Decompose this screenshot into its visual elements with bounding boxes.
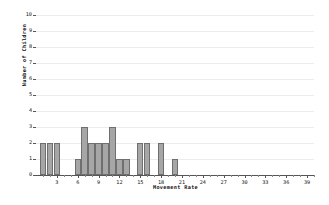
x-axis-tick-major xyxy=(286,175,287,178)
histogram-bar xyxy=(75,159,81,175)
y-axis-tick-label: 7 xyxy=(20,60,32,65)
x-axis-tick-minor xyxy=(217,175,218,177)
y-axis-tick-label: 0 xyxy=(20,172,32,177)
y-axis-tick-label: 6 xyxy=(20,76,32,81)
x-axis-tick-minor xyxy=(231,175,232,177)
bar-series xyxy=(36,15,314,175)
x-axis-title: Movement Rate xyxy=(36,184,315,190)
histogram-bar xyxy=(81,127,87,175)
plot-area: 012345678910 36912151821242730333639 xyxy=(36,15,314,175)
x-axis-tick-minor xyxy=(175,175,176,177)
histogram-bar xyxy=(88,143,94,175)
x-axis-tick-minor xyxy=(126,175,127,177)
x-axis-tick-major xyxy=(99,175,100,178)
x-axis-tick-minor xyxy=(147,175,148,177)
x-axis-tick-major xyxy=(307,175,308,178)
x-axis-tick-minor xyxy=(71,175,72,177)
histogram-bar xyxy=(172,159,178,175)
y-axis-tick xyxy=(33,175,36,176)
x-axis-tick-minor xyxy=(279,175,280,177)
x-axis-tick-minor xyxy=(210,175,211,177)
x-axis-tick-minor xyxy=(272,175,273,177)
histogram-bar xyxy=(40,143,46,175)
x-axis-tick-minor xyxy=(43,175,44,177)
y-axis-tick-label: 9 xyxy=(20,28,32,33)
x-axis-tick-major xyxy=(265,175,266,178)
y-axis-tick-label: 1 xyxy=(20,156,32,161)
histogram-bar xyxy=(109,127,115,175)
x-axis-tick-minor xyxy=(314,175,315,177)
x-axis-tick-minor xyxy=(251,175,252,177)
histogram-bar xyxy=(47,143,53,175)
histogram-bar xyxy=(158,143,164,175)
x-axis-tick-major xyxy=(182,175,183,178)
y-axis-tick-label: 5 xyxy=(20,92,32,97)
x-axis-tick-major xyxy=(140,175,141,178)
y-axis-tick-label: 8 xyxy=(20,44,32,49)
x-axis-tick-minor xyxy=(238,175,239,177)
x-axis-tick-minor xyxy=(64,175,65,177)
y-axis-tick-label: 4 xyxy=(20,108,32,113)
histogram-bar xyxy=(116,159,122,175)
x-axis-tick-minor xyxy=(85,175,86,177)
histogram-bar xyxy=(137,143,143,175)
histogram-figure: Number of Children 012345678910 36912151… xyxy=(0,0,329,205)
x-axis-tick-minor xyxy=(258,175,259,177)
x-axis-tick-minor xyxy=(92,175,93,177)
y-axis-tick-label: 10 xyxy=(20,12,32,17)
x-axis-tick-minor xyxy=(154,175,155,177)
histogram-bar xyxy=(123,159,129,175)
x-axis-tick-minor xyxy=(106,175,107,177)
x-axis-tick-minor xyxy=(168,175,169,177)
x-axis-tick-minor xyxy=(189,175,190,177)
x-axis-tick-minor xyxy=(196,175,197,177)
x-axis-tick-major xyxy=(119,175,120,178)
y-axis-tick-label: 2 xyxy=(20,140,32,145)
x-axis-tick-minor xyxy=(133,175,134,177)
x-axis-tick-major xyxy=(161,175,162,178)
x-axis-tick-major xyxy=(203,175,204,178)
x-axis-tick-minor xyxy=(293,175,294,177)
y-axis-title: Number of Children xyxy=(21,5,27,105)
x-axis-tick-minor xyxy=(300,175,301,177)
y-axis-tick-label: 3 xyxy=(20,124,32,129)
histogram-bar xyxy=(95,143,101,175)
histogram-bar xyxy=(144,143,150,175)
x-axis-tick-major xyxy=(224,175,225,178)
x-axis-tick-minor xyxy=(112,175,113,177)
histogram-bar xyxy=(102,143,108,175)
x-axis-tick-major xyxy=(78,175,79,178)
x-axis-tick-major xyxy=(245,175,246,178)
histogram-bar xyxy=(54,143,60,175)
x-axis-tick-minor xyxy=(50,175,51,177)
x-axis-tick-major xyxy=(57,175,58,178)
